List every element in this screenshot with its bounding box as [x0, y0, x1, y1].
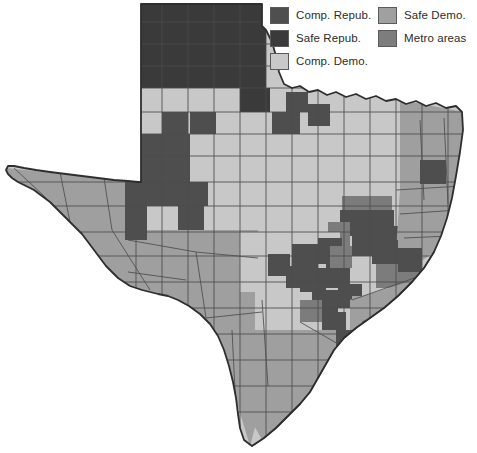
county-block-row6	[128, 206, 323, 232]
county-dark-houston-2	[398, 248, 422, 272]
county-dark-c2	[164, 156, 190, 182]
legend-swatch-safe-democratic	[378, 7, 397, 24]
legend-swatch-metro-areas	[378, 30, 397, 47]
legend-column-left: Comp. Repub. Safe Repub. Comp. Demo.	[270, 6, 378, 70]
county-dark-n3	[420, 160, 446, 184]
county-dark-corr-9	[268, 254, 290, 276]
legend-item-competitive-republican[interactable]: Comp. Repub.	[270, 6, 378, 24]
legend-item-competitive-democratic[interactable]: Comp. Demo.	[270, 52, 378, 70]
legend-column-right: Safe Demo. Metro areas	[378, 6, 475, 70]
legend-label-competitive-democratic: Comp. Demo.	[296, 55, 368, 68]
legend-label-safe-republican: Safe Repub.	[296, 32, 361, 45]
county-block-ne-2	[408, 120, 462, 160]
county-dark-a2	[190, 112, 216, 134]
county-dark-a1	[162, 112, 188, 134]
map-figure: Comp. Repub. Safe Repub. Comp. Demo. Saf…	[0, 0, 477, 453]
county-metro-sa	[300, 300, 322, 322]
legend: Comp. Repub. Safe Repub. Comp. Demo. Saf…	[270, 6, 475, 70]
legend-label-metro-areas: Metro areas	[404, 32, 466, 45]
legend-item-safe-republican[interactable]: Safe Repub.	[270, 29, 378, 47]
county-dark-houston-1	[372, 240, 398, 264]
county-dark-e1	[178, 206, 204, 232]
county-dark-n2	[286, 92, 308, 112]
county-dark-d3	[182, 182, 208, 206]
county-metro-austin	[330, 246, 352, 268]
county-block-south-plains	[138, 88, 240, 112]
county-dark-n1	[308, 104, 330, 126]
legend-label-safe-democratic: Safe Demo.	[404, 9, 466, 22]
county-metro-corpus	[352, 332, 372, 352]
county-block-east-2	[400, 200, 450, 250]
county-dark-b2	[164, 134, 190, 156]
legend-item-safe-democratic[interactable]: Safe Demo.	[378, 6, 475, 24]
legend-item-metro-areas[interactable]: Metro areas	[378, 29, 475, 47]
county-dark-d2	[156, 182, 182, 206]
county-block-coast-2	[352, 296, 412, 338]
legend-swatch-competitive-republican	[270, 7, 289, 24]
county-block-panhandle-se	[240, 88, 270, 112]
county-dark-a3	[272, 112, 300, 134]
legend-swatch-competitive-democratic	[270, 53, 289, 70]
county-dark-s1	[336, 330, 358, 352]
legend-label-competitive-republican: Comp. Repub.	[296, 9, 371, 22]
legend-swatch-safe-republican	[270, 30, 289, 47]
